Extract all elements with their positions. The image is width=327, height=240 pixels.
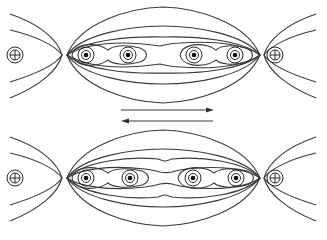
- pair-lobes: [72, 45, 252, 66]
- conductor-out-of-page-2: [120, 47, 136, 63]
- conductor-into-page-right: [267, 170, 283, 186]
- conductor-into-page-left: [7, 47, 23, 63]
- bottom-panel: [7, 130, 316, 226]
- left-outer-field-lines: [10, 137, 62, 221]
- pair-lobes: [72, 168, 253, 189]
- conductor-out-of-page-1: [78, 47, 94, 63]
- conductor-out-of-page-4: [227, 47, 243, 63]
- conductor-out-of-page-3: [185, 170, 201, 186]
- right-outer-field-lines: [264, 137, 316, 221]
- conductor-out-of-page-2: [122, 170, 138, 186]
- conductor-into-page-right: [267, 47, 283, 63]
- right-outer-field-lines: [264, 14, 316, 98]
- top-panel: [7, 7, 316, 103]
- field-line-diagram: [0, 0, 327, 240]
- conductor-out-of-page-4: [228, 170, 244, 186]
- arrow-left: [121, 119, 213, 124]
- motion-arrows: [121, 108, 214, 124]
- conductor-out-of-page-3: [186, 47, 202, 63]
- left-outer-field-lines: [10, 14, 62, 98]
- conductor-out-of-page-1: [78, 170, 94, 186]
- conductor-into-page-left: [7, 170, 23, 186]
- enclosing-field-lines: [67, 7, 260, 103]
- arrow-right: [121, 108, 214, 113]
